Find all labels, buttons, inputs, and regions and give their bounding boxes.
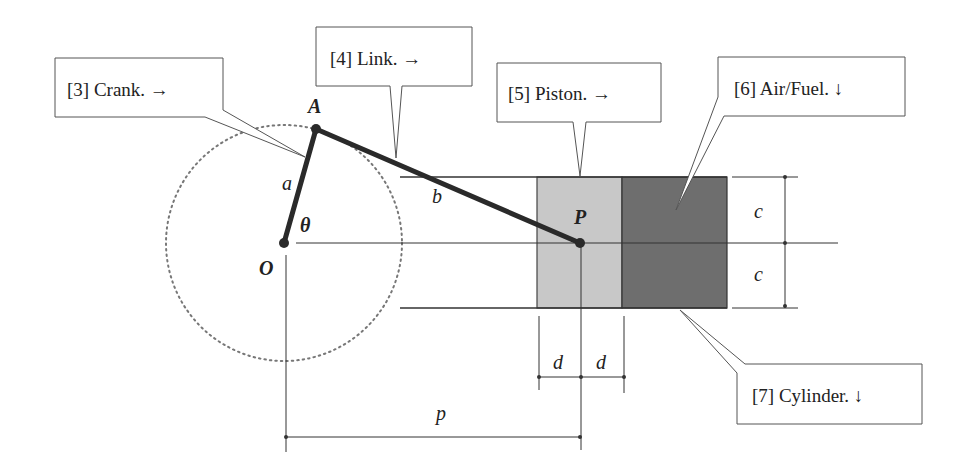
d-tick-right xyxy=(622,375,626,379)
d-tick-mid xyxy=(579,375,583,379)
d-label-left: d xyxy=(553,351,564,373)
theta-label: θ xyxy=(300,214,311,236)
c-tick-mid xyxy=(783,241,787,245)
d-tick-left xyxy=(537,375,541,379)
c-label-top: c xyxy=(754,200,763,222)
point-label-P: P xyxy=(573,206,587,228)
p-label: p xyxy=(434,402,446,425)
c-tick-top xyxy=(783,175,787,179)
joint-A xyxy=(311,124,321,134)
slider-crank-diagram: A O P a b θ c c d d p [3] Crank. → [4] L… xyxy=(0,0,968,470)
joint-P xyxy=(575,238,585,248)
crank-length-label: a xyxy=(282,172,292,194)
callout-crank: [3] Crank. → xyxy=(55,58,305,157)
link-length-label: b xyxy=(432,185,442,207)
callout-airfuel-label: [6] Air/Fuel. ↓ xyxy=(734,78,843,99)
callout-piston: [5] Piston. → xyxy=(497,63,661,176)
p-tick-right xyxy=(578,435,582,439)
callout-cylinder-label: [7] Cylinder. ↓ xyxy=(752,385,863,406)
callout-link-label: [4] Link. → xyxy=(330,48,421,69)
joint-O xyxy=(279,238,289,248)
c-label-bottom: c xyxy=(754,263,763,285)
callout-cylinder: [7] Cylinder. ↓ xyxy=(680,310,922,424)
point-label-A: A xyxy=(306,95,321,117)
callout-piston-label: [5] Piston. → xyxy=(508,83,611,104)
p-tick-left xyxy=(284,435,288,439)
d-label-right: d xyxy=(596,351,607,373)
point-label-O: O xyxy=(259,257,273,279)
callout-crank-label: [3] Crank. → xyxy=(67,79,169,100)
c-tick-bottom xyxy=(783,304,787,308)
